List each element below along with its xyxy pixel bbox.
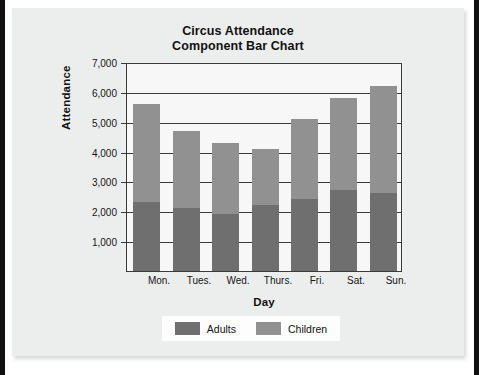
legend-item[interactable]: Adults: [175, 322, 236, 335]
y-tick-label: 1,000: [92, 237, 117, 248]
bar-segment-adults[interactable]: [370, 193, 397, 271]
y-tick-label: 4,000: [92, 147, 117, 158]
y-tick-mark: [121, 123, 126, 124]
bar-group[interactable]: [291, 119, 318, 271]
bar-segment-adults[interactable]: [291, 199, 318, 271]
chart-title-line-2: Component Bar Chart: [12, 39, 464, 54]
x-tick-label: Sun.: [371, 275, 421, 286]
y-tick-mark: [121, 242, 126, 243]
bar-group[interactable]: [330, 98, 357, 271]
legend-swatch: [256, 322, 281, 335]
legend-swatch: [175, 322, 200, 335]
y-tick-label: 7,000: [92, 58, 117, 69]
bar-segment-adults[interactable]: [133, 202, 160, 271]
y-tick-mark: [121, 93, 126, 94]
y-tick-mark: [121, 212, 126, 213]
chart-card: Circus Attendance Component Bar Chart At…: [12, 8, 464, 356]
page-frame-left-rule: [0, 0, 5, 375]
bars-layer: [127, 64, 401, 271]
legend-label: Children: [288, 323, 327, 335]
bar-segment-adults[interactable]: [330, 190, 357, 271]
bar-group[interactable]: [212, 143, 239, 271]
y-tick-label: 2,000: [92, 207, 117, 218]
bar-segment-adults[interactable]: [173, 208, 200, 271]
bar-group[interactable]: [173, 131, 200, 271]
plot-wrapper: 7,0006,0005,0004,0003,0002,0001,000 Mon.…: [126, 63, 402, 272]
bar-group[interactable]: [133, 104, 160, 271]
bar-segment-children[interactable]: [291, 119, 318, 200]
y-tick-label: 6,000: [92, 87, 117, 98]
y-tick-mark: [121, 63, 126, 64]
bar-group[interactable]: [252, 149, 279, 271]
chart-title: Circus Attendance Component Bar Chart: [12, 24, 464, 54]
x-axis-title: Day: [126, 296, 402, 308]
bar-segment-children[interactable]: [252, 149, 279, 206]
y-tick-label: 3,000: [92, 177, 117, 188]
bar-segment-children[interactable]: [370, 86, 397, 193]
bar-segment-children[interactable]: [212, 143, 239, 215]
y-axis-title: Attendance: [60, 65, 72, 130]
page-edge-margin: [479, 0, 483, 375]
bar-segment-children[interactable]: [330, 98, 357, 191]
y-tick-mark: [121, 153, 126, 154]
bar-segment-children[interactable]: [133, 104, 160, 203]
chart-title-line-1: Circus Attendance: [12, 24, 464, 39]
legend-label: Adults: [207, 323, 236, 335]
chart-legend: AdultsChildren: [162, 316, 340, 341]
y-tick-label: 5,000: [92, 117, 117, 128]
bar-segment-adults[interactable]: [252, 205, 279, 271]
bar-segment-adults[interactable]: [212, 214, 239, 271]
bar-group[interactable]: [370, 86, 397, 271]
y-tick-mark: [121, 182, 126, 183]
bar-segment-children[interactable]: [173, 131, 200, 209]
legend-item[interactable]: Children: [256, 322, 327, 335]
